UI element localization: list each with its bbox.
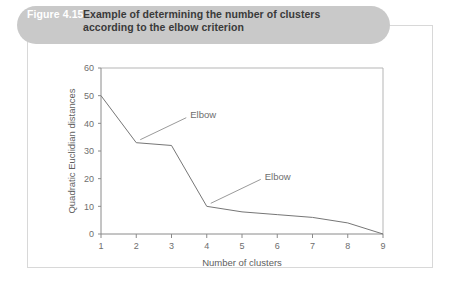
elbow-annotation-label: Elbow bbox=[265, 171, 291, 182]
y-tick-label: 40 bbox=[84, 119, 94, 129]
elbow-annotations: ElbowElbow bbox=[140, 109, 291, 203]
x-tick-label: 9 bbox=[380, 241, 385, 251]
y-tick-label: 30 bbox=[84, 146, 94, 156]
y-tick-label: 20 bbox=[84, 174, 94, 184]
x-tick-label: 5 bbox=[239, 241, 244, 251]
x-axis-ticks: 123456789 bbox=[98, 234, 385, 251]
y-axis-ticks: 0102030405060 bbox=[84, 63, 101, 239]
y-axis-title: Quadratic Euclidian distances bbox=[66, 88, 77, 213]
x-tick-label: 7 bbox=[310, 241, 315, 251]
x-tick-label: 2 bbox=[134, 241, 139, 251]
y-tick-label: 10 bbox=[84, 202, 94, 212]
x-tick-label: 6 bbox=[275, 241, 280, 251]
chart-canvas: 0102030405060 123456789 ElbowElbow Numbe… bbox=[0, 0, 455, 290]
x-tick-label: 4 bbox=[204, 241, 209, 251]
x-axis-title: Number of clusters bbox=[202, 257, 282, 268]
elbow-annotation-label: Elbow bbox=[190, 109, 216, 120]
plot-frame bbox=[101, 68, 383, 234]
elbow-criterion-line-chart: 0102030405060 123456789 ElbowElbow Numbe… bbox=[0, 0, 455, 290]
x-tick-label: 1 bbox=[98, 241, 103, 251]
y-tick-label: 60 bbox=[84, 63, 94, 73]
x-tick-label: 3 bbox=[169, 241, 174, 251]
data-line bbox=[101, 96, 383, 234]
y-tick-label: 50 bbox=[84, 91, 94, 101]
x-tick-label: 8 bbox=[345, 241, 350, 251]
data-series-line bbox=[101, 96, 383, 234]
y-tick-label: 0 bbox=[89, 229, 94, 239]
